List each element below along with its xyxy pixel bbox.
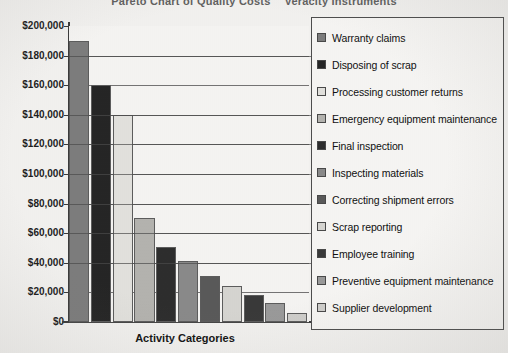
legend-item-label: Employee training [332,248,414,260]
y-axis-tick-label: $40,000 [28,258,64,268]
legend-item[interactable]: Supplier development [317,294,503,321]
legend-item[interactable]: Final inspection [317,132,503,159]
bar [156,247,176,322]
legend-item-label: Inspecting materials [332,167,423,179]
legend-item-label: Supplier development [332,302,432,314]
bar [200,276,220,322]
y-axis-tick-label: $20,000 [28,287,64,297]
gridline-extension [69,233,311,234]
gridline-extension [69,144,311,145]
bar [178,261,198,322]
legend-item[interactable]: Processing customer returns [317,78,503,105]
bar [222,286,242,322]
gridline-extension [69,56,311,57]
gridline-extension [69,263,311,264]
gridline-extension [69,174,311,175]
legend-item-label: Correcting shipment errors [332,194,454,206]
gridline-extension [69,204,311,205]
y-axis-tick-label: $100,000 [22,169,64,179]
bar [287,313,307,322]
legend-item[interactable]: Disposing of scrap [317,51,503,78]
bar [69,41,89,322]
y-axis-tick-label: $80,000 [28,199,64,209]
legend-item-label: Disposing of scrap [332,59,417,71]
legend-item[interactable]: Emergency equipment maintenance [317,105,503,132]
bar [244,295,264,322]
bar [265,303,285,322]
legend-item-label: Scrap reporting [332,221,402,233]
legend-swatch-icon [317,114,326,123]
legend-item-label: Emergency equipment maintenance [332,113,497,125]
chart-legend: Warranty claimsDisposing of scrapProcess… [311,17,504,330]
bar [113,115,133,322]
legend-item[interactable]: Employee training [317,240,503,267]
legend-swatch-icon [317,60,326,69]
legend-item[interactable]: Correcting shipment errors [317,186,503,213]
chart-title-subject: Veracity Instruments [285,0,397,7]
pareto-chart-figure: Pareto Chart of Quality CostsVeracity In… [0,0,508,353]
y-axis-tick-label: $180,000 [22,51,64,61]
legend-swatch-icon [317,249,326,258]
legend-item[interactable]: Warranty claims [317,24,503,51]
gridline-extension [69,115,311,116]
legend-swatch-icon [317,303,326,312]
y-axis-tick-label: $160,000 [22,80,64,90]
legend-item[interactable]: Scrap reporting [317,213,503,240]
legend-swatch-icon [317,33,326,42]
y-axis-tick-labels: $200,000$180,000$160,000$140,000$120,000… [0,0,64,353]
x-axis-title: Activity Categories [60,332,310,344]
legend-swatch-icon [317,195,326,204]
legend-swatch-icon [317,276,326,285]
y-axis-tick-label: $60,000 [28,228,64,238]
legend-swatch-icon [317,141,326,150]
legend-item-label: Final inspection [332,140,403,152]
legend-item-label: Processing customer returns [332,86,463,98]
y-axis-tick-label: $120,000 [22,139,64,149]
legend-item[interactable]: Inspecting materials [317,159,503,186]
legend-item-label: Preventive equipment maintenance [332,275,493,287]
legend-item[interactable]: Preventive equipment maintenance [317,267,503,294]
legend-swatch-icon [317,87,326,96]
legend-swatch-icon [317,168,326,177]
y-axis-tick-label: $140,000 [22,110,64,120]
y-axis-tick-label: $200,000 [22,21,64,31]
legend-swatch-icon [317,222,326,231]
legend-item-label: Warranty claims [332,32,405,44]
gridline [69,322,309,323]
chart-title: Pareto Chart of Quality CostsVeracity In… [0,0,508,7]
chart-title-main: Pareto Chart of Quality Costs [111,0,270,7]
